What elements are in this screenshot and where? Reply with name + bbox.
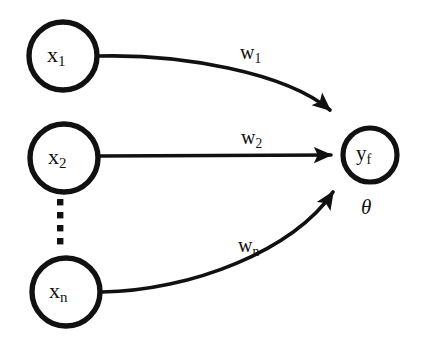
connection-w1 — [99, 56, 330, 110]
connection-wn-label: wn — [238, 235, 259, 255]
output-node-yf-label: yf — [356, 143, 371, 164]
input-node-xn-label: xn — [49, 280, 67, 302]
neuron-diagram-figure: x1 x2 xn yf w1 w2 wn θ — [0, 0, 426, 340]
input-node-x2-label: x2 — [48, 146, 66, 168]
connection-w2-label: w2 — [241, 127, 262, 147]
bias-theta-label: θ — [361, 197, 371, 218]
connection-w2 — [99, 155, 331, 156]
vertical-ellipsis-icon — [57, 199, 63, 244]
connection-wn — [102, 192, 333, 292]
connection-w1-label: w1 — [240, 42, 261, 62]
input-node-x1-label: x1 — [47, 44, 65, 66]
